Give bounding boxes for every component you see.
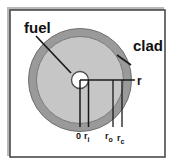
fuel-label: fuel xyxy=(24,19,51,36)
axis-mark-outer-fuel-sub: o xyxy=(109,136,113,143)
axis-mark-center: 0 xyxy=(76,131,81,141)
clad-label: clad xyxy=(133,37,163,54)
radial-arrow-label: r xyxy=(137,74,142,88)
axis-mark-outer-clad-sub: c xyxy=(121,138,125,145)
fuel-rod-cross-section-diagram: fuel clad r 0 ri ro rc xyxy=(0,0,171,163)
axis-mark-inner-fuel-sub: i xyxy=(88,136,90,143)
figure-container: fuel clad r 0 ri ro rc xyxy=(0,0,171,163)
axis-mark-center-base: 0 xyxy=(76,131,81,141)
